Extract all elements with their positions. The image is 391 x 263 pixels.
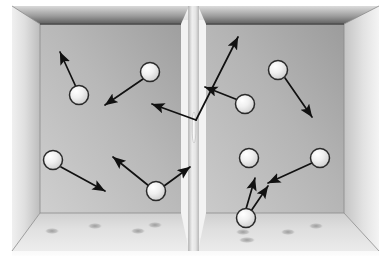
gas-particle bbox=[70, 86, 89, 105]
left-chamber bbox=[12, 6, 189, 251]
diagram-canvas bbox=[0, 0, 391, 263]
gas-particle bbox=[269, 61, 288, 80]
right-chamber-right-wall bbox=[344, 6, 379, 251]
floor-shadow bbox=[88, 223, 102, 229]
floor-shadow bbox=[131, 228, 145, 234]
gas-particle bbox=[147, 182, 166, 201]
two-chamber-gas-diagram bbox=[0, 0, 391, 263]
left-chamber-floor bbox=[12, 213, 189, 251]
gas-particle bbox=[44, 151, 63, 170]
right-chamber bbox=[198, 6, 379, 251]
gas-particle bbox=[237, 209, 256, 228]
gas-particle bbox=[311, 149, 330, 168]
floor-shadow bbox=[148, 222, 162, 228]
left-chamber-ceiling bbox=[12, 6, 189, 24]
gas-particle bbox=[236, 95, 255, 114]
left-chamber-left-wall bbox=[12, 6, 40, 251]
floor-shadow bbox=[236, 229, 250, 235]
floor-shadow bbox=[239, 237, 255, 243]
floor-shadow bbox=[309, 223, 323, 229]
gas-particle bbox=[240, 149, 259, 168]
gas-particle bbox=[141, 63, 160, 82]
slit-opening bbox=[192, 112, 196, 143]
partition-wall bbox=[189, 6, 199, 251]
right-chamber-back-wall bbox=[206, 24, 344, 213]
floor-shadow bbox=[45, 228, 59, 234]
floor-shadow bbox=[281, 229, 295, 235]
